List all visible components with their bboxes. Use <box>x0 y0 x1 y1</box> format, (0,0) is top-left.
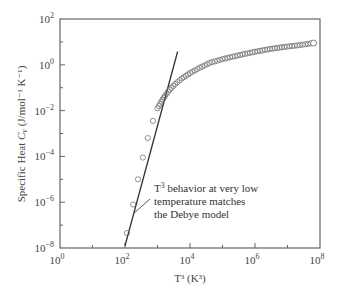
y-axis-tick-labels: 10210010−210−410−610−8 <box>34 11 54 254</box>
data-point <box>145 135 150 140</box>
data-point <box>131 202 136 207</box>
x-tick-label: 100 <box>50 252 65 266</box>
data-point <box>150 118 155 123</box>
y-tick-label: 100 <box>39 57 54 71</box>
y-tick-label: 10−8 <box>34 240 54 254</box>
specific-heat-chart: 100102104106108 10210010−210−410−610−8 T… <box>0 0 342 298</box>
data-point <box>140 155 145 160</box>
y-tick-label: 10−4 <box>34 148 54 162</box>
x-axis-title: T³ (K³) <box>174 272 206 285</box>
annotation-text: T3 behavior at very low temperature matc… <box>154 181 261 220</box>
y-axis-title: Specific Heat Cv (J/mol⁻¹ K⁻¹) <box>15 65 29 202</box>
x-axis-ticks <box>93 243 288 248</box>
x-axis-tick-labels: 100102104106108 <box>50 252 325 266</box>
data-point <box>135 177 140 182</box>
y-tick-label: 10−2 <box>34 103 54 117</box>
data-point-last <box>311 40 317 46</box>
y-tick-label: 10−6 <box>34 194 54 208</box>
x-tick-label: 108 <box>310 252 325 266</box>
y-axis-ticks <box>60 42 65 225</box>
x-tick-label: 106 <box>245 252 260 266</box>
y-tick-label: 102 <box>39 11 54 25</box>
x-tick-label: 104 <box>180 252 195 266</box>
x-tick-label: 102 <box>115 252 130 266</box>
